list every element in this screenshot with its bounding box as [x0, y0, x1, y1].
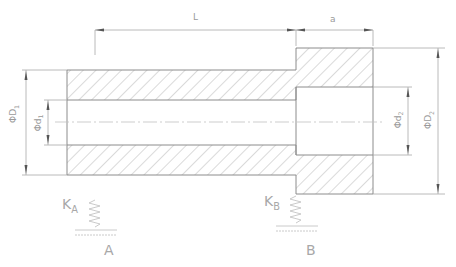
label-stiffness-A: KA	[62, 196, 78, 215]
label-inner-diameter-right: Φd2	[393, 111, 405, 128]
spring-support-B	[276, 196, 318, 231]
label-support-A: A	[104, 242, 114, 258]
label-outer-diameter-left: ΦD1	[8, 105, 20, 123]
label-support-B: B	[306, 242, 316, 258]
spring-support-A	[75, 200, 117, 235]
label-L: L	[193, 12, 198, 22]
shaft-section	[67, 48, 373, 194]
label-inner-diameter-left: Φd1	[33, 114, 45, 131]
label-outer-diameter-right: ΦD2	[423, 111, 435, 129]
shaft-drawing	[0, 0, 456, 267]
label-stiffness-B: KB	[264, 193, 280, 212]
label-a: a	[330, 14, 336, 24]
